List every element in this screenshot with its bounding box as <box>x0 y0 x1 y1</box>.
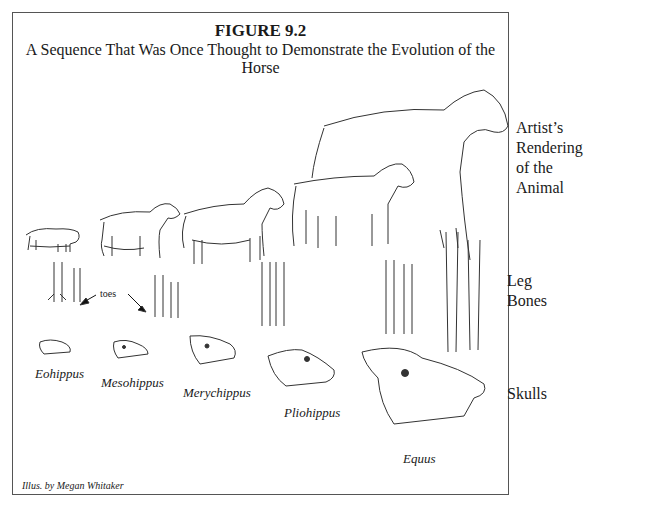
mesohippus-animal-drawing <box>100 204 180 258</box>
species-label-eohippus: Eohippus <box>35 366 84 382</box>
eohippus-animal-drawing <box>26 229 79 252</box>
illustration-credit: Illus. by Megan Whitaker <box>22 480 124 491</box>
merychippus-animal-drawing <box>182 188 284 264</box>
pliohippus-animal-drawing <box>292 164 414 248</box>
species-label-mesohippus: Mesohippus <box>101 375 164 391</box>
row-label-animal-line: of the <box>516 158 583 178</box>
row-label-leg-bones: Leg Bones <box>507 271 547 311</box>
row-label-animal-line: Artist’s <box>516 118 583 138</box>
equus-animal-drawing <box>312 90 508 260</box>
row-label-legs-line: Bones <box>507 291 547 311</box>
row-label-skulls: Skulls <box>507 384 547 404</box>
row-label-legs-line: Leg <box>507 271 547 291</box>
row-label-animal: Artist’s Rendering of the Animal <box>516 118 583 198</box>
species-label-pliohippus: Pliohippus <box>284 405 340 421</box>
horse-evolution-illustration <box>0 0 645 506</box>
species-label-equus: Equus <box>403 451 436 467</box>
toes-annotation: toes <box>100 288 116 299</box>
row-label-animal-line: Rendering <box>516 138 583 158</box>
species-label-merychippus: Merychippus <box>183 385 251 401</box>
row-label-animal-line: Animal <box>516 178 583 198</box>
